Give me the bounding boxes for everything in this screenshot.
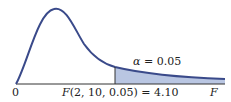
- crit-args: (2, 10, 0.05) = 4.10: [70, 86, 179, 99]
- alpha-label: α = 0.05: [133, 56, 181, 67]
- alpha-value: = 0.05: [140, 55, 181, 68]
- axis-variable-label: F: [210, 87, 218, 98]
- crit-f-symbol: F: [62, 86, 70, 99]
- critical-value-label: F(2, 10, 0.05) = 4.10: [62, 87, 178, 98]
- origin-label: 0: [12, 87, 19, 98]
